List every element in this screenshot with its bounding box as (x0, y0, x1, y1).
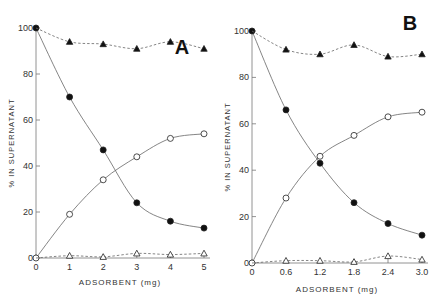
series-line-open-circles (36, 134, 204, 258)
y-tick-label: 60 (239, 119, 249, 129)
data-point (66, 253, 72, 259)
x-tick-label: 0.6 (280, 267, 293, 277)
x-tick-label: 0 (33, 262, 38, 272)
data-point (419, 51, 425, 57)
panel-a: 020406080100012345ADSORBENT (mg)% IN SUP… (7, 23, 210, 287)
x-tick-label: 3 (134, 262, 139, 272)
data-point (283, 107, 289, 113)
y-tick-label: 0 (28, 253, 33, 263)
y-tick-label: 60 (23, 115, 33, 125)
data-point (167, 135, 173, 141)
x-tick-label: 1.2 (314, 267, 327, 277)
data-point (283, 46, 289, 52)
x-axis-label: ADSORBENT (mg) (296, 285, 378, 294)
data-point (134, 154, 140, 160)
data-point (134, 200, 140, 206)
data-point (134, 46, 140, 52)
data-point (419, 232, 425, 238)
data-point (419, 109, 425, 115)
x-tick-label: 4 (168, 262, 173, 272)
x-tick-label: 5 (201, 262, 206, 272)
data-point (385, 253, 391, 259)
data-point (100, 177, 106, 183)
x-tick-label: 1 (67, 262, 72, 272)
x-tick-label: 3.0 (416, 267, 429, 277)
panel-b: 02040608010000.61.21.82.43.0ADSORBENT (m… (223, 12, 428, 294)
series-line-filled-circles (36, 28, 204, 228)
data-point (283, 195, 289, 201)
y-axis-label: % IN SUPERNATANT (223, 102, 232, 191)
x-tick-label: 2 (101, 262, 106, 272)
data-point (100, 147, 106, 153)
series-line-filled-triangles (252, 31, 422, 57)
y-tick-label: 20 (23, 207, 33, 217)
panel-label: B (403, 12, 417, 34)
y-axis-label: % IN SUPERNATANT (7, 98, 16, 187)
series-line-open-triangles (36, 253, 204, 258)
x-axis-label: ADSORBENT (mg) (79, 278, 161, 287)
y-tick-label: 80 (239, 72, 249, 82)
data-point (67, 94, 73, 100)
data-point (67, 211, 73, 217)
data-point (317, 51, 323, 57)
y-tick-label: 100 (234, 26, 249, 36)
y-tick-label: 20 (239, 212, 249, 222)
y-tick-label: 0 (244, 258, 249, 268)
data-point (385, 114, 391, 120)
series-line-open-circles (252, 112, 422, 263)
data-point (167, 218, 173, 224)
series-line-filled-circles (252, 31, 422, 235)
x-tick-label: 1.8 (348, 267, 361, 277)
data-point (201, 250, 207, 256)
data-point (317, 160, 323, 166)
series-line-open-triangles (252, 256, 422, 263)
data-point (134, 250, 140, 256)
y-tick-label: 40 (239, 165, 249, 175)
y-tick-label: 80 (23, 69, 33, 79)
data-point (201, 131, 207, 137)
data-point (351, 132, 357, 138)
data-point (201, 46, 207, 52)
data-point (317, 257, 323, 263)
data-point (351, 200, 357, 206)
panel-label: A (175, 36, 189, 58)
data-point (385, 221, 391, 227)
data-point (317, 153, 323, 159)
y-tick-label: 40 (23, 161, 33, 171)
data-point (201, 225, 207, 231)
figure: 020406080100012345ADSORBENT (mg)% IN SUP… (0, 0, 446, 303)
data-point (385, 53, 391, 59)
y-tick-label: 100 (18, 23, 33, 33)
data-point (351, 42, 357, 48)
x-tick-label: 2.4 (382, 267, 395, 277)
x-tick-label: 0 (249, 267, 254, 277)
